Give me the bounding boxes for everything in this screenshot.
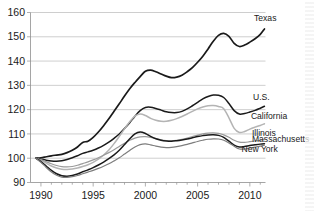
y-axis-tick-labels: 90100110120130140150160 — [7, 6, 25, 188]
y-axis-label-120: 120 — [7, 103, 25, 115]
series-label-california: California — [251, 111, 288, 121]
series-label-new-york: New York — [241, 144, 278, 154]
x-axis-label-1995: 1995 — [81, 189, 105, 201]
y-axis-label-150: 150 — [7, 30, 25, 42]
chart-canvas: 90100110120130140150160 1990199520002005… — [0, 0, 314, 211]
x-axis-label-1990: 1990 — [29, 189, 53, 201]
y-axis-label-140: 140 — [7, 55, 25, 67]
series-label-massachusetts: Massachusetts — [252, 134, 309, 144]
x-axis-label-2000: 2000 — [134, 189, 158, 201]
page-edge-strip — [305, 0, 314, 211]
y-axis-label-100: 100 — [7, 152, 25, 164]
series-label-texas: Texas — [254, 13, 276, 23]
series-lines-group — [36, 29, 265, 177]
line-chart: 90100110120130140150160 1990199520002005… — [0, 0, 314, 211]
y-axis-label-90: 90 — [13, 176, 25, 188]
y-axis-label-110: 110 — [8, 128, 25, 140]
series-line-illinois — [36, 133, 265, 167]
y-axis-label-130: 130 — [7, 79, 25, 91]
series-line-texas — [36, 29, 265, 158]
series-label-u-s: U.S. — [253, 92, 270, 102]
x-axis-tick-labels: 19901995200020052010 — [29, 189, 261, 201]
x-axis-label-2010: 2010 — [238, 189, 262, 201]
x-axis-label-2005: 2005 — [186, 189, 210, 201]
y-axis-label-160: 160 — [7, 6, 25, 18]
series-labels-group: TexasU.S.CaliforniaIllinoisMassachusetts… — [241, 13, 309, 154]
